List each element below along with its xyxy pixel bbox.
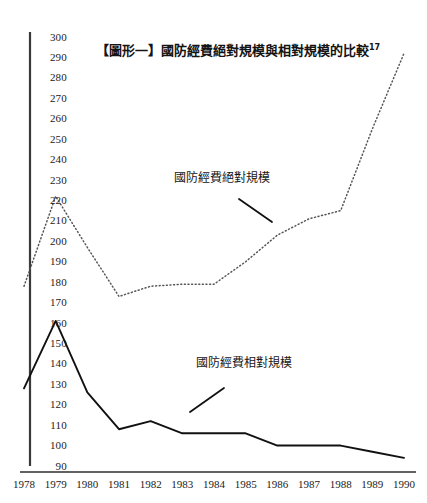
leader-line-relative (190, 388, 224, 412)
y-axis-tick-label: 180 (33, 277, 67, 288)
y-axis-tick-label: 110 (33, 420, 67, 431)
y-axis-tick-label: 150 (33, 338, 67, 349)
y-axis-tick-label: 170 (33, 297, 67, 308)
y-axis-tick-label: 140 (33, 358, 67, 369)
y-axis-tick-label: 200 (33, 236, 67, 247)
chart-plot-area: 3002902802702602502402302202102001901801… (0, 0, 427, 503)
y-axis-tick-label: 130 (33, 379, 67, 390)
y-axis-tick-label: 250 (33, 134, 67, 145)
y-axis-tick-label: 160 (33, 318, 67, 329)
y-axis-tick-label: 240 (33, 154, 67, 165)
x-axis-tick-label: 1989 (361, 479, 383, 490)
figure-title-text: 【圖形一】國防經費絕對規模與相對規模的比較 (96, 43, 369, 58)
y-axis-tick-label: 280 (33, 72, 67, 83)
x-axis-tick-label: 1980 (76, 479, 98, 490)
y-axis-tick-label: 260 (33, 113, 67, 124)
y-axis-tick-label: 300 (33, 32, 67, 43)
figure-title-footnote: 17 (369, 43, 380, 52)
y-axis-tick-label: 230 (33, 175, 67, 186)
x-axis-tick-label: 1984 (203, 479, 225, 490)
y-axis-tick-label: 100 (33, 440, 67, 451)
y-axis-tick-label: 220 (33, 195, 67, 206)
y-axis-tick-label: 90 (33, 461, 67, 472)
figure-container: 3002902802702602502402302202102001901801… (0, 0, 427, 503)
x-axis-tick-label: 1988 (330, 479, 352, 490)
series-label-relative: 國防經費相對規模 (196, 356, 292, 370)
x-axis-tick-label: 1982 (140, 479, 162, 490)
y-axis-tick-label: 210 (33, 215, 67, 226)
y-axis-tick-label: 290 (33, 52, 67, 63)
y-axis-tick-label: 120 (33, 399, 67, 410)
x-axis-tick-label: 1983 (171, 479, 193, 490)
leader-line-absolute (239, 199, 272, 222)
x-axis-tick-label: 1985 (235, 479, 257, 490)
x-axis-tick-label: 1979 (45, 479, 67, 490)
series-label-absolute: 國防經費絕對規模 (174, 171, 270, 185)
figure-title: 【圖形一】國防經費絕對規模與相對規模的比較17 (96, 40, 380, 58)
x-axis-tick-label: 1990 (393, 479, 415, 490)
x-axis-tick-label: 1981 (108, 479, 130, 490)
y-axis-tick-label: 190 (33, 256, 67, 267)
x-axis-tick-label: 1986 (266, 479, 288, 490)
y-axis-tick-label: 270 (33, 93, 67, 104)
x-axis-tick-label: 1987 (298, 479, 320, 490)
x-axis-tick-label: 1978 (13, 479, 35, 490)
series-line-relative (24, 321, 404, 458)
